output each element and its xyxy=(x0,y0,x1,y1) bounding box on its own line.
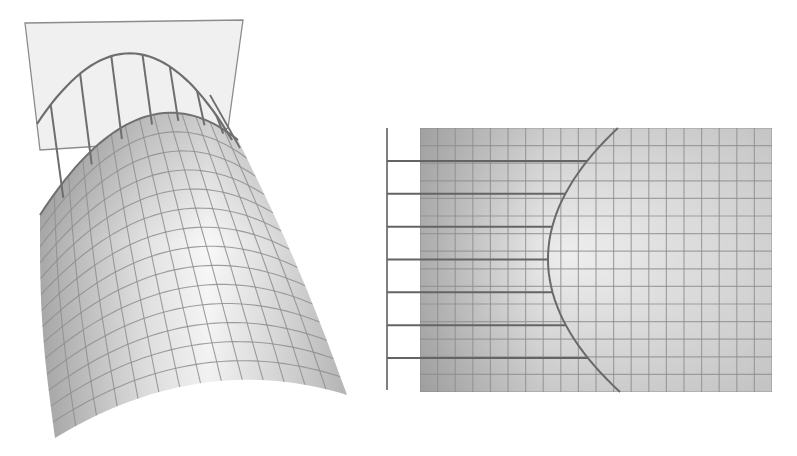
surface-shading xyxy=(40,113,347,438)
figure-canvas xyxy=(0,0,797,456)
perspective-view xyxy=(25,20,347,438)
top-view xyxy=(387,128,772,392)
